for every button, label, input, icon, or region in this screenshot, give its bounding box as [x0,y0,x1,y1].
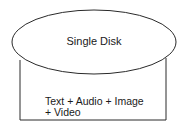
disk-label: Single Disk [12,35,176,47]
contents-label: Text + Audio + Image + Video [45,96,165,118]
contents-line-2: + Video [45,107,165,118]
